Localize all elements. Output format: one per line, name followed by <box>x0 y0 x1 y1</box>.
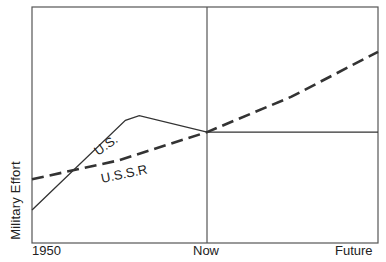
x-tick-future: Future <box>335 243 373 258</box>
x-tick-1950: 1950 <box>32 243 61 258</box>
series-us-line <box>32 116 378 210</box>
series-us-label: U.S. <box>91 132 120 159</box>
y-axis-label-text: Military Effort <box>8 161 23 240</box>
x-tick-now: Now <box>193 243 219 258</box>
series-ussr-label: U.S.S.R <box>100 161 149 185</box>
line-chart: U.S. U.S.S.R <box>0 0 386 262</box>
y-axis-label: Military Effort <box>6 150 24 250</box>
plot-frame <box>32 7 378 243</box>
